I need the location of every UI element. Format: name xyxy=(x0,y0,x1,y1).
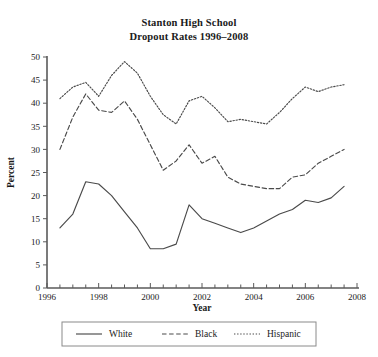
series-line-hispanic xyxy=(60,62,344,124)
chart-figure: Stanton High School Dropout Rates 1996–2… xyxy=(0,0,378,357)
legend-label-hispanic[interactable]: Hispanic xyxy=(267,329,301,339)
x-axis-title: Year xyxy=(193,303,213,313)
chart-legend: WhiteBlackHispanic xyxy=(62,322,316,346)
y-axis-tick-label: 45 xyxy=(31,75,41,85)
x-axis-tick-label: 2008 xyxy=(348,292,367,302)
x-axis-tick-label: 2004 xyxy=(245,292,264,302)
x-axis: 1996199820002002200420062008Year xyxy=(38,283,367,313)
x-axis-tick-label: 2006 xyxy=(296,292,315,302)
y-axis-tick-label: 25 xyxy=(31,168,41,178)
y-axis: 05101520253035404550Percent xyxy=(6,52,47,293)
x-axis-tick-label: 1998 xyxy=(90,292,109,302)
y-axis-tick-label: 35 xyxy=(31,122,41,132)
y-axis-tick-label: 40 xyxy=(31,98,41,108)
y-axis-tick-label: 20 xyxy=(31,191,41,201)
chart-title: Stanton High School Dropout Rates 1996–2… xyxy=(0,16,378,44)
data-series-group xyxy=(60,62,344,249)
y-axis-tick-label: 30 xyxy=(31,145,41,155)
line-chart-plot: 05101520253035404550Percent 199619982000… xyxy=(0,0,378,357)
y-axis-tick-label: 5 xyxy=(36,260,41,270)
legend-label-white[interactable]: White xyxy=(109,329,132,339)
legend-label-black[interactable]: Black xyxy=(195,329,217,339)
x-axis-tick-label: 2000 xyxy=(141,292,160,302)
y-axis-title: Percent xyxy=(6,156,16,188)
y-axis-tick-label: 50 xyxy=(31,52,41,62)
chart-title-line-2: Dropout Rates 1996–2008 xyxy=(0,30,378,44)
series-line-black xyxy=(60,94,344,189)
chart-title-line-1: Stanton High School xyxy=(0,16,378,30)
x-axis-tick-label: 1996 xyxy=(38,292,57,302)
x-axis-tick-label: 2002 xyxy=(193,292,211,302)
series-line-white xyxy=(60,182,344,249)
y-axis-tick-label: 15 xyxy=(31,214,41,224)
y-axis-tick-label: 10 xyxy=(31,237,41,247)
